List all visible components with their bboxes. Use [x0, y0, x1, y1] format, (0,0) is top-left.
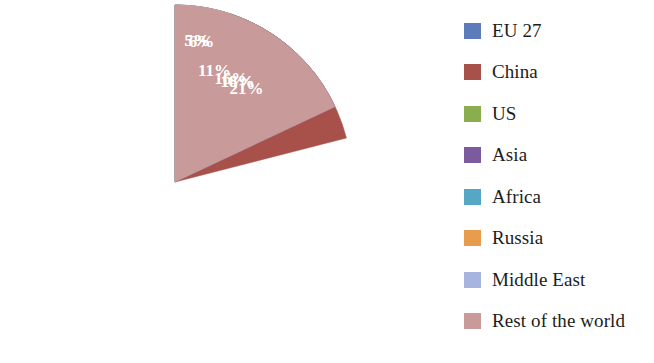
pie-slice-label: 18%	[221, 72, 255, 91]
legend-item[interactable]: Russia	[464, 218, 654, 260]
legend-item-label: Russia	[492, 227, 543, 249]
legend-item-label: Asia	[492, 144, 527, 166]
pie-chart-figure: 11%21%16%18%6%5%5%18% EU 27ChinaUSAsiaAf…	[0, 0, 654, 363]
legend-item[interactable]: Asia	[464, 135, 654, 177]
legend-color-swatch-icon	[464, 147, 481, 163]
legend-item-label: EU 27	[492, 20, 542, 42]
legend-color-swatch-icon	[464, 64, 481, 80]
legend-item[interactable]: China	[464, 52, 654, 94]
legend-item-label: US	[492, 103, 517, 125]
legend-color-swatch-icon	[464, 189, 481, 205]
legend-color-swatch-icon	[464, 272, 481, 288]
pie-chart-svg: 11%21%16%18%6%5%5%18%	[0, 0, 440, 363]
legend-color-swatch-icon	[464, 230, 481, 246]
legend-item-label: Rest of the world	[492, 310, 625, 332]
legend-item[interactable]: Middle East	[464, 259, 654, 301]
legend-item-label: China	[492, 61, 538, 83]
legend-item[interactable]: EU 27	[464, 10, 654, 52]
legend-item[interactable]: US	[464, 93, 654, 135]
legend-item-label: Middle East	[492, 269, 585, 291]
legend-color-swatch-icon	[464, 23, 481, 39]
legend-color-swatch-icon	[464, 106, 481, 122]
chart-legend: EU 27ChinaUSAsiaAfricaRussiaMiddle EastR…	[464, 10, 654, 358]
legend-color-swatch-icon	[464, 313, 481, 329]
pie-slice-label: 5%	[184, 31, 210, 50]
legend-item[interactable]: Rest of the world	[464, 301, 654, 343]
legend-item-label: Africa	[492, 186, 541, 208]
legend-item[interactable]: Africa	[464, 176, 654, 218]
pie-chart-plot-area: 11%21%16%18%6%5%5%18%	[0, 0, 440, 363]
